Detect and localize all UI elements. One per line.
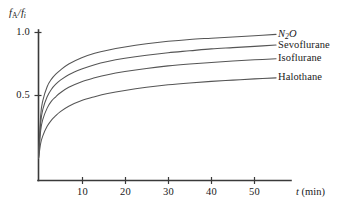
x-tick-label-10: 10: [71, 186, 95, 197]
x-tick-label-30: 30: [157, 186, 181, 197]
series-label-halothane: Halothane: [278, 71, 322, 82]
series-label-isoflurane: Isoflurane: [278, 52, 322, 63]
x-tick-label-20: 20: [114, 186, 138, 197]
anesthetic-uptake-chart: fA/fi 1.0 0.5 10 20 30 40 50 t (min) N2O…: [0, 0, 346, 210]
curve-isoflurane: [39, 59, 277, 159]
curve-halothane: [39, 78, 277, 159]
x-axis-title: t (min): [296, 186, 325, 197]
x-tick-label-40: 40: [200, 186, 224, 197]
curve-sevoflurane: [39, 45, 277, 158]
series-curves: [39, 34, 277, 158]
x-tick-label-50: 50: [243, 186, 267, 197]
y-tick-label-1-0: 1.0: [4, 26, 30, 37]
y-axis-denominator-sub: i: [24, 11, 26, 20]
curve-n2o: [39, 34, 277, 158]
series-label-n2o-tail: O: [289, 28, 297, 39]
series-label-sevoflurane: Sevoflurane: [278, 39, 330, 50]
y-tick-label-0-5: 0.5: [4, 89, 30, 100]
y-axis-title: fA/fi: [9, 7, 26, 20]
x-axis-unit: (min): [302, 186, 325, 197]
